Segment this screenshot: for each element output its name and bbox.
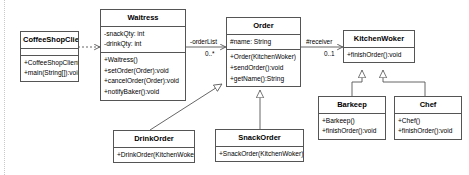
class-name-order: Order [227, 18, 300, 34]
uml-class-kitchenworker[interactable]: KitchenWoker +finishOrder():void [343, 30, 415, 63]
class-name-chef: Chef [395, 97, 461, 113]
operation-item: +Barkeep() [319, 116, 385, 127]
operation-item: +getName():String [227, 74, 300, 85]
operation-compartment-chef: +Chef() +finishOrder():void [395, 114, 461, 139]
operation-item: +finishOrder():void [344, 50, 414, 61]
uml-class-coffeeshopclient[interactable]: CoffeeShopClient +CoffeeShopClient() +ma… [20, 31, 79, 82]
operation-item: +notifyBaker():void [101, 87, 185, 98]
operation-item: +Chef() [395, 116, 461, 127]
operation-compartment-coffeeshopclient: +CoffeeShopClient() +main(String[]):void [21, 56, 78, 81]
link-barkeep-to-kitchenworker [352, 70, 362, 96]
class-name-barkeep: Barkeep [319, 97, 385, 113]
attribute-compartment-waitress: -snackQty: int -drinkQty: int [101, 27, 185, 52]
uml-class-chef[interactable]: Chef +Chef() +finishOrder():void [394, 96, 462, 140]
association-role-receiver: #receiver [306, 39, 332, 45]
operation-item: +finishOrder():void [319, 126, 385, 137]
uml-class-drinkorder[interactable]: DrinkOrder +DrinkOrder(KitchenWoker) [113, 130, 195, 163]
operation-compartment-waitress: +Waitress() +setOrder(Order):void +cance… [101, 53, 185, 100]
operation-compartment-barkeep: +Barkeep() +finishOrder():void [319, 114, 385, 139]
operation-item: +sendOrder():void [227, 63, 300, 74]
operation-item: +finishOrder():void [395, 126, 461, 137]
operation-item: +main(String[]):void [21, 68, 78, 79]
association-multiplicity-receiver: 0..1 [324, 51, 335, 57]
association-role-orderlist: -orderList [190, 39, 217, 45]
operation-compartment-order: +Order(KitchenWoker) +sendOrder():void +… [227, 50, 300, 86]
operation-item: +setOrder(Order):void [101, 66, 185, 77]
attribute-item: #name: String [227, 37, 300, 48]
operation-item: +Waitress() [101, 55, 185, 66]
association-multiplicity-orderlist: 0..* [205, 51, 215, 57]
link-chef-to-kitchenworker [383, 70, 425, 96]
class-name-waitress: Waitress [101, 10, 185, 26]
uml-class-snackorder[interactable]: SnackOrder +SnackOrder(KitchenWoker) [215, 129, 304, 162]
operation-item: +SnackOrder(KitchenWoker) [216, 149, 303, 160]
operation-compartment-kitchenworker: +finishOrder():void [344, 48, 414, 63]
operation-item: +cancelOrder(Order):void [101, 76, 185, 87]
canvas-guide-line [4, 0, 5, 175]
uml-class-waitress[interactable]: Waitress -snackQty: int -drinkQty: int +… [100, 9, 186, 101]
class-name-coffeeshopclient: CoffeeShopClient [21, 32, 78, 48]
uml-class-order[interactable]: Order #name: String +Order(KitchenWoker)… [226, 17, 301, 87]
operation-item: +DrinkOrder(KitchenWoker) [114, 150, 194, 161]
operation-compartment-snackorder: +SnackOrder(KitchenWoker) [216, 147, 303, 162]
operation-compartment-drinkorder: +DrinkOrder(KitchenWoker) [114, 148, 194, 163]
operation-item: +CoffeeShopClient() [21, 58, 78, 69]
operation-item: +Order(KitchenWoker) [227, 52, 300, 63]
uml-class-barkeep[interactable]: Barkeep +Barkeep() +finishOrder():void [318, 96, 386, 140]
class-name-snackorder: SnackOrder [216, 130, 303, 146]
attribute-compartment-order: #name: String [227, 35, 300, 50]
class-name-drinkorder: DrinkOrder [114, 131, 194, 147]
attribute-item: -drinkQty: int [101, 39, 185, 50]
uml-diagram-canvas: -orderList 0..* #receiver 0..1 CoffeeSho… [0, 0, 469, 175]
attribute-item: -snackQty: int [101, 29, 185, 40]
class-name-kitchenworker: KitchenWoker [344, 31, 414, 47]
